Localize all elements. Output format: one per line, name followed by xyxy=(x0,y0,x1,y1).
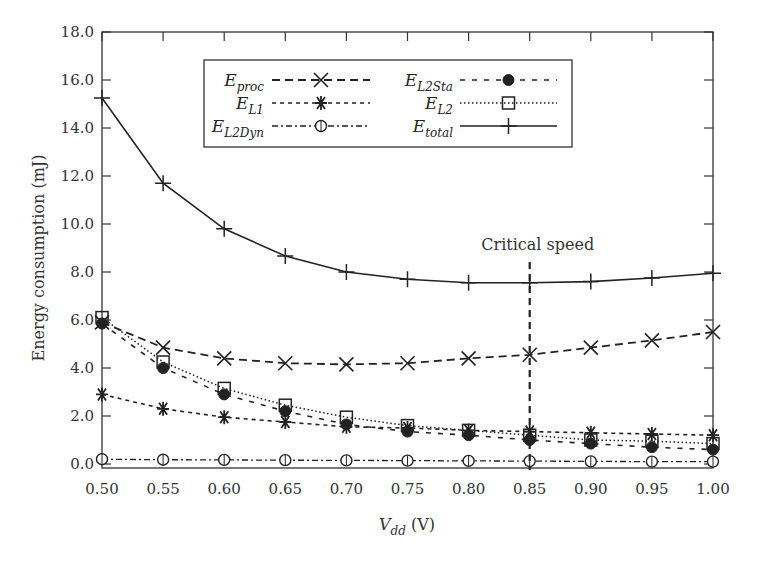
filled-circle-marker-icon xyxy=(341,419,352,430)
x-tick-label: 0.75 xyxy=(391,480,424,498)
filled-circle-marker-icon xyxy=(503,75,514,86)
y-tick-label: 14.0 xyxy=(61,119,94,137)
plus-marker-icon xyxy=(155,175,171,191)
asterisk-marker-icon xyxy=(218,410,230,424)
plus-marker-icon xyxy=(461,275,477,291)
x-axis-title: Vdd (V) xyxy=(379,515,435,538)
x-tick-label: 0.80 xyxy=(452,480,485,498)
x-tick-label: 0.70 xyxy=(330,480,363,498)
plus-marker-icon xyxy=(400,271,416,287)
plus-marker-icon xyxy=(216,221,232,237)
plus-marker-icon xyxy=(277,248,293,264)
plus-marker-icon xyxy=(644,270,660,286)
plus-marker-icon xyxy=(583,274,599,290)
asterisk-marker-icon xyxy=(646,427,658,441)
x-tick-label: 0.50 xyxy=(85,480,118,498)
x-axis-title-sub: dd xyxy=(391,524,407,538)
y-tick-label: 16.0 xyxy=(61,71,94,89)
x-tick-label: 0.65 xyxy=(269,480,302,498)
x-tick-label: 0.90 xyxy=(574,480,607,498)
plus-marker-icon xyxy=(94,90,110,106)
series-line xyxy=(102,322,713,364)
y-tick-label: 6.0 xyxy=(70,311,94,329)
asterisk-marker-icon xyxy=(157,402,169,416)
y-tick-label: 10.0 xyxy=(61,215,94,233)
series-e-proc xyxy=(95,315,720,371)
x-tick-label: 0.85 xyxy=(513,480,546,498)
y-tick-label: 8.0 xyxy=(70,263,94,281)
x-tick-label: 1.00 xyxy=(696,480,729,498)
legend: EprocEL1EL2DynEL2StaEL2Etotal xyxy=(204,60,572,147)
energy-chart: 0.02.04.06.08.010.012.014.016.018.00.500… xyxy=(0,0,762,566)
asterisk-marker-icon xyxy=(315,96,327,110)
y-tick-label: 12.0 xyxy=(61,167,94,185)
x-axis-title-unit: (V) xyxy=(406,515,435,534)
series-e-l2dyn xyxy=(97,454,719,467)
x-tick-label: 0.95 xyxy=(635,480,668,498)
y-tick-label: 18.0 xyxy=(61,23,94,41)
y-axis-title: Energy consumption (mJ) xyxy=(29,155,48,362)
x-tick-label: 0.60 xyxy=(207,480,240,498)
asterisk-marker-icon xyxy=(707,428,719,442)
x-tick-label: 0.55 xyxy=(146,480,179,498)
plus-marker-icon xyxy=(338,264,354,280)
x-marker-icon xyxy=(339,357,353,371)
y-tick-label: 4.0 xyxy=(70,359,94,377)
y-tick-label: 2.0 xyxy=(70,407,94,425)
critical-speed-label: Critical speed xyxy=(481,235,594,254)
series-e-l2sta xyxy=(97,318,719,455)
plus-marker-icon xyxy=(705,265,721,281)
filled-circle-marker-icon xyxy=(463,430,474,441)
asterisk-marker-icon xyxy=(96,387,108,401)
y-tick-label: 0.0 xyxy=(70,455,94,473)
annotation-layer: Critical speed xyxy=(481,235,594,470)
